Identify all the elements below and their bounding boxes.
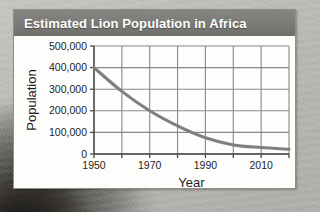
x-axis-tick-label: 1990: [194, 159, 218, 171]
chart-card: Estimated Lion Population in Africa 0100…: [13, 9, 296, 189]
y-axis-tick-label: 300,000: [49, 83, 87, 95]
y-axis-tick-label: 100,000: [49, 126, 87, 138]
line-chart: 0100,000200,000300,000400,000500,000 195…: [14, 36, 297, 190]
x-axis-tick-labels: 1950197019902010: [82, 159, 273, 171]
chart-title: Estimated Lion Population in Africa: [14, 16, 247, 31]
x-axis-tick-label: 2010: [249, 159, 273, 171]
y-axis-tick-labels: 0100,000200,000300,000400,000500,000: [49, 40, 87, 160]
y-axis-title: Population: [24, 69, 39, 130]
x-axis-tick-label: 1970: [138, 159, 162, 171]
x-axis-tick-label: 1950: [82, 159, 106, 171]
grid-lines: [94, 46, 289, 154]
axis-lines: [94, 46, 289, 154]
y-axis-tick-label: 0: [81, 148, 87, 160]
series-line-lion-population: [94, 68, 289, 150]
y-axis-tick-label: 400,000: [49, 61, 87, 73]
chart-plot-container: 0100,000200,000300,000400,000500,000 195…: [14, 36, 295, 188]
x-axis-title: Year: [178, 175, 205, 190]
chart-title-bar: Estimated Lion Population in Africa: [14, 10, 295, 36]
y-axis-tick-label: 200,000: [49, 104, 87, 116]
y-axis-tick-label: 500,000: [49, 40, 87, 52]
